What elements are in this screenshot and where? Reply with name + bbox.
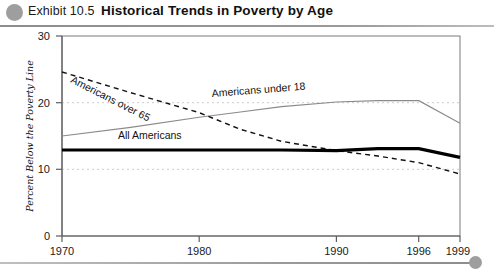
y-axis: 30 20 10 0 bbox=[38, 30, 62, 242]
x-axis: 1970 1980 1990 1996 1999 bbox=[50, 236, 470, 257]
xtick-1980: 1980 bbox=[187, 245, 211, 257]
exhibit-number-label: Exhibit 10.5 bbox=[28, 4, 95, 18]
ytick-20: 20 bbox=[38, 97, 50, 109]
chart-area: 30 20 10 0 1970 1980 1990 1996 1999 Per bbox=[0, 26, 494, 262]
footer-bullet-dot-icon bbox=[469, 256, 482, 269]
series-label-all-americans: All Americans bbox=[118, 129, 182, 141]
xtick-1970: 1970 bbox=[50, 245, 74, 257]
ytick-30: 30 bbox=[38, 30, 50, 42]
xtick-1999: 1999 bbox=[446, 245, 470, 257]
ytick-0: 0 bbox=[44, 230, 50, 242]
y-axis-title: Percent Below the Poverty Line bbox=[24, 60, 35, 213]
xtick-1990: 1990 bbox=[324, 245, 348, 257]
ytick-10: 10 bbox=[38, 163, 50, 175]
xtick-1996: 1996 bbox=[406, 245, 430, 257]
page-title: Historical Trends in Poverty by Age bbox=[101, 3, 333, 18]
exhibit-header: Exhibit 10.5 Historical Trends in Povert… bbox=[0, 0, 494, 26]
exhibit-figure: Exhibit 10.5 Historical Trends in Povert… bbox=[0, 0, 494, 274]
line-chart-svg: 30 20 10 0 1970 1980 1990 1996 1999 Per bbox=[0, 26, 494, 262]
bullet-dot-icon bbox=[6, 4, 23, 21]
footer-divider bbox=[0, 262, 470, 264]
